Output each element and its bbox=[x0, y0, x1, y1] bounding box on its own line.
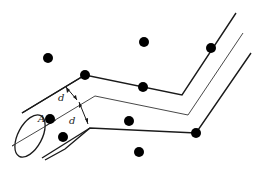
arrowhead-icon bbox=[85, 118, 88, 124]
point-dot bbox=[138, 82, 148, 92]
point-dot bbox=[206, 43, 216, 53]
point-dot bbox=[124, 116, 134, 126]
diagram-svg: d d A bbox=[0, 0, 263, 170]
upper-boundary-line bbox=[22, 13, 236, 113]
point-dot bbox=[139, 37, 149, 47]
point-dot bbox=[134, 147, 144, 157]
point-dot bbox=[43, 53, 53, 63]
data-points bbox=[43, 37, 216, 157]
label-d-upper: d bbox=[58, 92, 64, 103]
point-dot bbox=[58, 132, 68, 142]
point-dot bbox=[80, 70, 90, 80]
point-dot bbox=[191, 128, 201, 138]
label-point-a: A bbox=[37, 113, 45, 124]
arrowhead-icon bbox=[66, 87, 70, 93]
cylinder-bottom-edge bbox=[42, 128, 90, 158]
buffer-corridor-diagram: d d A bbox=[0, 0, 263, 170]
label-d-lower: d bbox=[69, 115, 75, 126]
point-dot-a bbox=[45, 114, 55, 124]
